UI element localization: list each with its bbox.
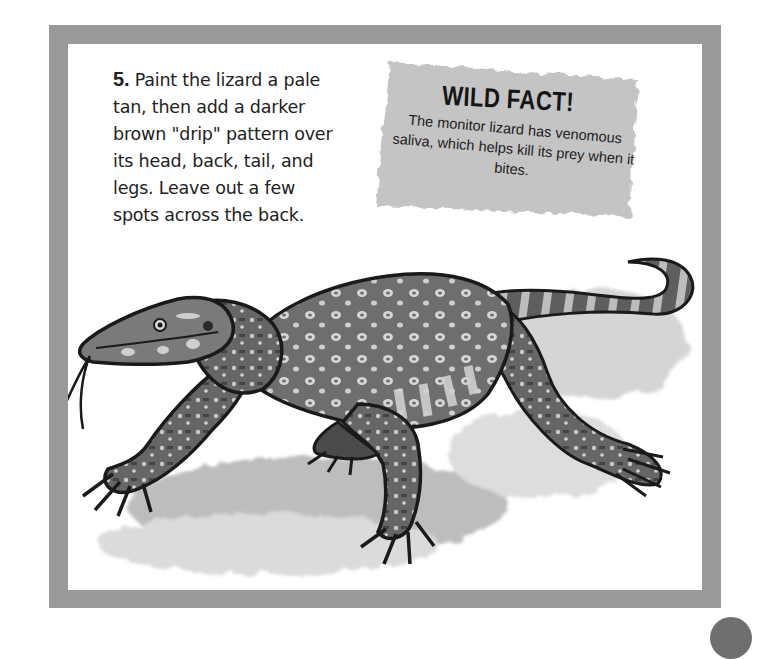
page-marker-circle — [710, 617, 752, 659]
wild-fact-box: WILD FACT! The monitor lizard has venomo… — [368, 56, 648, 221]
step-number: 5. — [113, 68, 129, 90]
page-content: 5. Paint the lizard a pale tan, then add… — [68, 44, 702, 590]
instruction-step-5: 5. Paint the lizard a pale tan, then add… — [113, 66, 343, 229]
step-instruction-text: Paint the lizard a pale tan, then add a … — [113, 70, 332, 225]
page-frame: 5. Paint the lizard a pale tan, then add… — [49, 25, 721, 608]
